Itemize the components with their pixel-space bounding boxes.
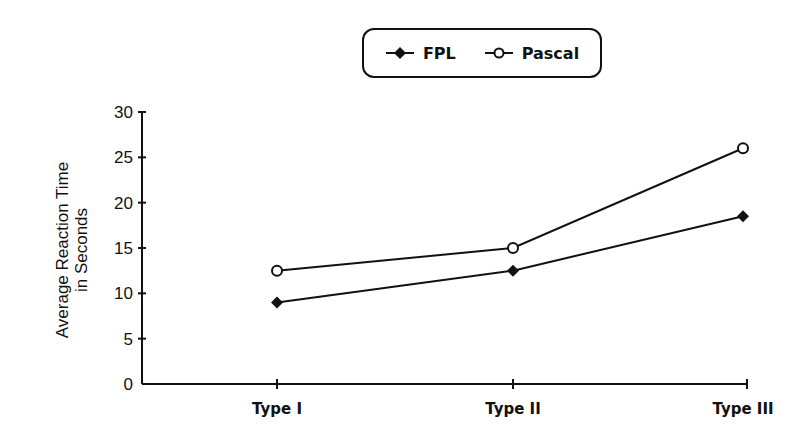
filled-diamond-marker-icon [737,210,749,222]
y-tick-label: 10 [114,284,133,303]
y-tick-label: 30 [114,103,133,122]
x-tick-label: Type II [485,400,541,418]
series-line-fpl [277,216,743,302]
open-circle-marker-icon [272,266,282,276]
open-circle-marker-icon [738,143,748,153]
filled-diamond-marker-icon [271,296,283,308]
y-tick-label: 0 [124,375,133,394]
chart-axes: 051015202530Type IType IIType III [114,103,773,418]
open-circle-marker-icon [508,243,518,253]
y-tick-label: 20 [114,194,133,213]
y-tick-label: 25 [114,148,133,167]
line-chart: 051015202530Type IType IIType III [0,0,812,445]
y-axis-title-line-1: Average Reaction Time [53,130,72,370]
chart-series [271,143,749,308]
y-axis-title: Average Reaction Time in Seconds [53,130,91,370]
y-tick-label: 5 [124,330,133,349]
x-tick-label: Type III [712,400,773,418]
y-tick-label: 15 [114,239,133,258]
y-axis-title-line-2: in Seconds [72,130,91,370]
x-tick-label: Type I [252,400,302,418]
filled-diamond-marker-icon [507,265,519,277]
